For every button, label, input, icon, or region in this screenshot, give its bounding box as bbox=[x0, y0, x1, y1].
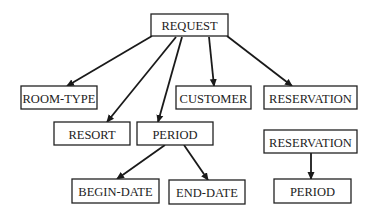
tree-diagram: REQUESTROOM-TYPECUSTOMERRESERVATIONRESOR… bbox=[0, 0, 374, 217]
node-reservation-1: RESERVATION bbox=[264, 86, 357, 109]
nodes-layer: REQUESTROOM-TYPECUSTOMERRESERVATIONRESOR… bbox=[21, 14, 357, 204]
node-end-date: END-DATE bbox=[169, 180, 245, 204]
node-label: BEGIN-DATE bbox=[78, 185, 153, 199]
node-resort: RESORT bbox=[54, 122, 130, 145]
node-begin-date: BEGIN-DATE bbox=[72, 179, 159, 203]
node-label: END-DATE bbox=[176, 186, 238, 200]
node-label: REQUEST bbox=[161, 19, 218, 33]
edge-request-to-customer bbox=[209, 37, 214, 86]
node-period-1: PERIOD bbox=[137, 122, 213, 145]
node-label: PERIOD bbox=[152, 128, 197, 142]
node-period-2: PERIOD bbox=[274, 179, 351, 203]
node-label: ROOM-TYPE bbox=[23, 92, 96, 106]
edge-period-1-to-begin-date bbox=[117, 145, 165, 179]
node-label: RESERVATION bbox=[269, 136, 352, 150]
edge-request-to-resort bbox=[107, 37, 176, 122]
node-label: RESORT bbox=[68, 128, 116, 142]
node-label: PERIOD bbox=[290, 185, 335, 199]
edge-request-to-room-type bbox=[67, 36, 152, 86]
node-label: RESERVATION bbox=[269, 92, 352, 106]
edge-period-1-to-end-date bbox=[184, 145, 208, 180]
node-customer: CUSTOMER bbox=[176, 86, 251, 109]
node-reservation-2: RESERVATION bbox=[264, 130, 357, 153]
node-label: CUSTOMER bbox=[180, 92, 249, 106]
node-request: REQUEST bbox=[151, 14, 228, 36]
node-room-type: ROOM-TYPE bbox=[21, 86, 97, 109]
edge-request-to-reservation-1 bbox=[227, 36, 292, 86]
